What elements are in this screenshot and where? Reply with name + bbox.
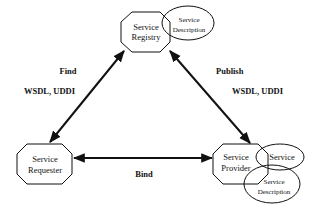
service-requester-node (17, 144, 72, 184)
publish-label: Publish (216, 66, 244, 76)
find-label: Find (59, 66, 76, 76)
provider-label-line2: Provider (221, 163, 250, 173)
provider-description-line1: Service (264, 178, 285, 186)
registry-label-line2: Registry (132, 32, 162, 42)
soa-diagram: Service Registry Service Description Ser… (0, 0, 320, 213)
requester-label-line1: Service (32, 154, 58, 164)
requester-label-line2: Requester (28, 165, 62, 175)
registry-description-line1: Service (179, 16, 200, 24)
find-sublabel: WSDL, UDDI (24, 86, 76, 96)
provider-label-line1: Service (223, 152, 249, 162)
find-arrow (50, 51, 124, 142)
publish-arrow (170, 51, 250, 143)
registry-label-line1: Service (133, 22, 159, 32)
provider-description-line2: Description (258, 188, 291, 196)
registry-description-line2: Description (173, 26, 206, 34)
provider-service-label: Service (269, 152, 295, 162)
publish-sublabel: WSDL, UDDI (232, 86, 284, 96)
bind-label: Bind (135, 169, 153, 179)
